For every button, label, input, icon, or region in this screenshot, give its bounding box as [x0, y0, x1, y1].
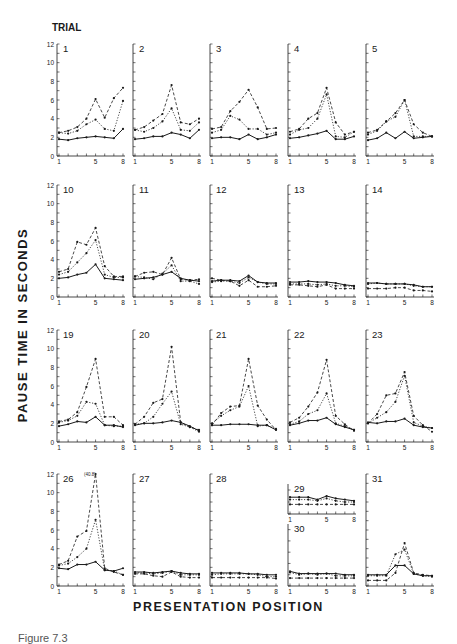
x-tick-label: 1: [288, 444, 292, 451]
data-point: [122, 574, 124, 576]
data-point: [189, 130, 191, 132]
data-point: [325, 577, 327, 579]
data-point: [113, 97, 115, 99]
trial-number: 29: [294, 483, 305, 494]
data-point: [413, 424, 415, 426]
y-tick-label: 10: [47, 345, 55, 352]
data-point: [152, 422, 154, 424]
data-point: [85, 118, 87, 120]
data-point: [367, 579, 369, 581]
data-point: [367, 139, 369, 141]
data-point: [67, 419, 69, 421]
data-point: [316, 391, 318, 393]
x-tick-label: 8: [197, 299, 201, 306]
data-point: [113, 275, 115, 277]
data-point: [335, 138, 337, 140]
data-point: [198, 429, 200, 431]
data-point: [170, 257, 172, 259]
x-tick-label: 1: [210, 299, 214, 306]
data-point: [220, 573, 222, 575]
data-point: [152, 127, 154, 129]
data-point: [134, 573, 136, 575]
y-tick-label: 6: [50, 238, 54, 245]
data-point: [266, 577, 268, 579]
y-tick-label: 12: [47, 471, 55, 478]
data-point: [335, 422, 337, 424]
data-point: [325, 130, 327, 132]
trial-number: 19: [63, 329, 74, 340]
y-tick-label: 10: [47, 489, 55, 496]
data-point: [266, 133, 268, 135]
data-point: [344, 285, 346, 287]
data-point: [104, 136, 106, 138]
trial-number: 21: [216, 329, 227, 340]
trial-number: 10: [63, 184, 74, 195]
data-point: [413, 421, 415, 423]
series-line-dotted: [368, 550, 432, 577]
trial-number: 13: [294, 184, 305, 195]
data-point: [94, 561, 96, 563]
y-tick-label: 10: [47, 200, 55, 207]
data-point: [247, 276, 249, 278]
data-point: [316, 409, 318, 411]
data-point: [385, 579, 387, 581]
data-point: [198, 118, 200, 120]
x-tick-label: 1: [366, 588, 370, 595]
data-point: [344, 133, 346, 135]
data-point: [152, 416, 154, 418]
data-point: [325, 359, 327, 361]
trial-number: 30: [294, 523, 305, 534]
data-point: [94, 135, 96, 137]
data-point: [289, 571, 291, 573]
data-point: [403, 283, 405, 285]
data-point: [316, 118, 318, 120]
data-point: [289, 137, 291, 139]
data-point: [122, 424, 124, 426]
data-point: [307, 280, 309, 282]
data-point: [94, 239, 96, 241]
data-point: [335, 575, 337, 577]
data-point: [94, 416, 96, 418]
data-point: [307, 285, 309, 287]
data-point: [247, 133, 249, 135]
data-point: [353, 131, 355, 133]
data-point: [275, 132, 277, 134]
data-point: [85, 530, 87, 532]
trial-number: 26: [63, 473, 74, 484]
data-point: [266, 424, 268, 426]
series-line-dotted: [212, 386, 276, 429]
data-point: [257, 138, 259, 140]
x-tick-label: 1: [288, 299, 292, 306]
data-point: [76, 137, 78, 139]
data-point: [247, 128, 249, 130]
trial-number: 4: [294, 43, 299, 54]
data-point: [238, 577, 240, 579]
data-point: [376, 422, 378, 424]
data-point: [257, 405, 259, 407]
data-point: [403, 371, 405, 373]
data-point: [394, 553, 396, 555]
x-tick-label: 5: [403, 444, 407, 451]
data-point: [229, 136, 231, 138]
data-point: [67, 271, 69, 273]
data-point: [385, 132, 387, 134]
data-point: [376, 575, 378, 577]
data-point: [76, 274, 78, 276]
data-point: [335, 497, 337, 499]
y-tick-label: 0: [50, 294, 54, 301]
x-tick-label: 8: [274, 444, 278, 451]
data-point: [289, 499, 291, 501]
data-point: [76, 420, 78, 422]
data-point: [211, 128, 213, 130]
x-tick-label: 1: [288, 588, 292, 595]
data-point: [76, 563, 78, 565]
data-point: [403, 549, 405, 551]
data-point: [85, 386, 87, 388]
data-point: [385, 420, 387, 422]
data-point: [247, 279, 249, 281]
x-tick-label: 1: [288, 516, 292, 523]
x-tick-label: 1: [288, 158, 292, 165]
data-point: [247, 89, 249, 91]
x-tick-label: 5: [94, 588, 98, 595]
data-point: [189, 279, 191, 281]
